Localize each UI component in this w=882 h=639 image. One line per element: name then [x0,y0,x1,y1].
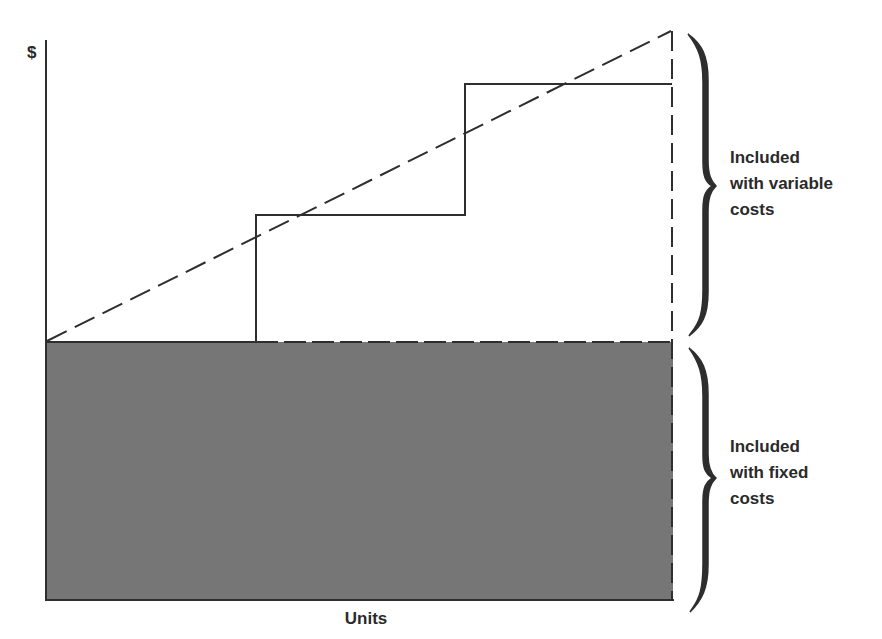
variable-costs-label-line-1: Included [730,145,880,171]
fixed-costs-label-line-3: costs [730,486,880,512]
variable-costs-label-line-2: with variable [730,171,880,197]
variable-cost-dashed-line [47,31,671,341]
lower-brace-icon [689,348,716,612]
cost-diagram [0,0,882,639]
fixed-costs-label: Included with fixed costs [730,434,880,512]
fixed-cost-area [47,342,673,600]
variable-costs-label: Included with variable costs [730,145,880,223]
variable-costs-label-line-3: costs [730,197,880,223]
y-axis-label: $ [27,40,36,66]
fixed-costs-label-line-1: Included [730,434,880,460]
step-cost-line [256,84,672,342]
fixed-costs-label-line-2: with fixed [730,460,880,486]
upper-brace-icon [688,34,716,336]
x-axis-label: Units [336,606,396,632]
